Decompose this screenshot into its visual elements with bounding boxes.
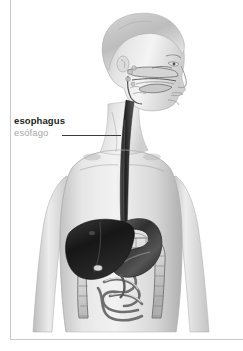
- callout-label-english: esophagus: [14, 116, 80, 126]
- gallbladder: [94, 265, 103, 271]
- bottom-divider-rule: [10, 339, 243, 340]
- digestive-system-illustration: [0, 0, 243, 351]
- body-figure: [33, 13, 209, 332]
- callout-label: esophagus esófago: [14, 116, 80, 137]
- head-profile: [102, 13, 186, 111]
- lips: [171, 93, 183, 96]
- ear: [117, 56, 129, 72]
- callout-label-spanish: esófago: [14, 128, 80, 138]
- anatomy-figure: esophagus esófago: [0, 0, 243, 351]
